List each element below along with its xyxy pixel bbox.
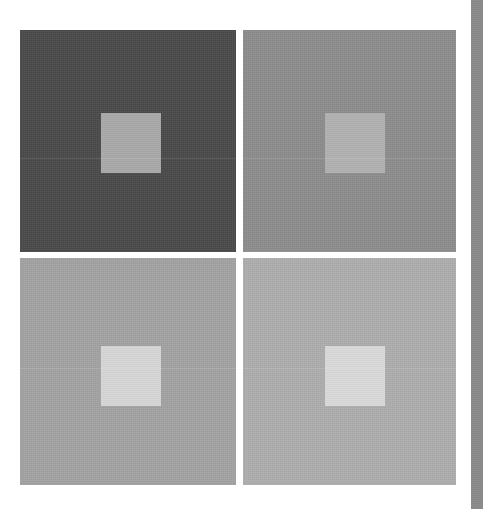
contrast-panel-top-right [243,30,456,252]
panel-grid [20,30,456,485]
test-patch-top-right [325,113,385,173]
contrast-panel-top-left [20,30,236,252]
contrast-panel-bottom-left [20,258,236,485]
test-patch-bottom-left [101,346,161,406]
contrast-panel-bottom-right [243,258,456,485]
test-patch-bottom-right [325,346,385,406]
figure-root [0,0,483,509]
page-gutter-bar [471,0,483,509]
test-patch-top-left [101,113,161,173]
